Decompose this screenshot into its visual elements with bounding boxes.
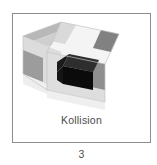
figure-number-label: 3 <box>12 148 151 160</box>
isometric-block-illustration <box>13 14 150 114</box>
figure-container: Kollision 3 <box>0 0 157 165</box>
isometric-block-svg <box>13 14 150 114</box>
figure-caption-label: Kollision <box>13 114 150 126</box>
figure-frame: Kollision <box>12 13 151 143</box>
